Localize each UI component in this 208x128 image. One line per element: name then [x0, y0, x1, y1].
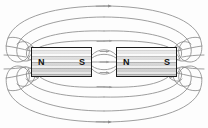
entry-left-a [4, 55, 26, 57]
flare-right-bottom [177, 73, 202, 78]
gap-field-line-upper-mid [92, 54, 116, 58]
field-line-lower-4-left [40, 77, 104, 87]
magnet-right-south-label: S [164, 58, 170, 67]
magnet-right: N S [116, 47, 177, 77]
magnet-right-north-label: N [123, 58, 130, 67]
entry-right-b [182, 67, 204, 69]
field-line-lower-4 [104, 77, 168, 87]
entry-left-b [4, 67, 26, 69]
field-line-lower-4-arrow [97, 87, 111, 88]
magnet-left: N S [31, 47, 92, 77]
magnet-left-north-label: N [38, 58, 45, 67]
entry-right-a [182, 55, 204, 57]
magnet-left-south-label: S [79, 58, 85, 67]
gap-field-line-lower-mid [92, 66, 116, 70]
flare-left-bottom [6, 73, 31, 78]
magnetic-field-diagram: N S N S [0, 0, 208, 128]
field-line-upper-4-arrow [97, 41, 111, 42]
